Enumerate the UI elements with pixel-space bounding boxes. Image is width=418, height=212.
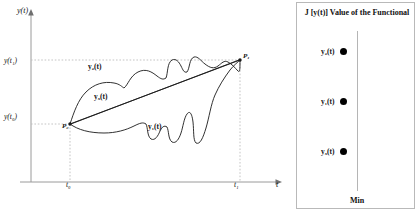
curve-label-y3: y₃(t) — [94, 92, 108, 101]
point-label-p1: P₁ — [243, 52, 250, 60]
t-tick-label-t1: t₁ — [234, 180, 239, 189]
curve-label-y2: y₂(t) — [88, 62, 102, 71]
y-axis-label: y(t) — [17, 6, 28, 15]
functional-value-dot-icon — [340, 148, 347, 155]
functional-entry-y1: y₁(t) — [321, 95, 347, 107]
guide-lines-group — [31, 60, 240, 182]
axes-group — [20, 9, 282, 185]
functional-axis-line — [357, 31, 358, 191]
functional-panel-title: J [y(t)] Value of the Functional — [301, 8, 413, 18]
functional-value-dot-icon — [340, 48, 347, 55]
y-axis-arrow-icon — [28, 9, 34, 16]
curve-label-y1: y₁(t) — [148, 122, 162, 131]
figure-root: y(t) t y(t₁) y(t₀) t₀ t₁ y₂(t) y₃(t) y₁(… — [0, 0, 418, 212]
trajectory-diagram-panel: y(t) t y(t₁) y(t₀) t₀ t₁ y₂(t) y₃(t) y₁(… — [0, 0, 292, 212]
t-tick-label-t0: t₀ — [66, 180, 71, 189]
functional-value-dot-icon — [340, 98, 347, 105]
point-p1-marker — [238, 58, 241, 61]
functional-value-panel: J [y(t)] Value of the Functional y₂(t) y… — [296, 2, 415, 209]
diagram-canvas — [0, 0, 292, 212]
functional-entry-label: y₂(t) — [321, 47, 335, 56]
point-label-p0: P₀ — [62, 122, 69, 130]
functional-min-label: Min — [301, 196, 413, 205]
functional-entry-label: y₁(t) — [321, 97, 335, 106]
functional-entry-y2: y₂(t) — [321, 45, 347, 57]
y-tick-label-upper: y(t₁) — [4, 56, 17, 65]
functional-entry-y3: y₃(t) — [321, 145, 347, 157]
y-tick-label-lower: y(t₀) — [4, 112, 17, 121]
functional-entry-label: y₃(t) — [321, 147, 335, 156]
t-axis-label: t — [276, 180, 278, 189]
